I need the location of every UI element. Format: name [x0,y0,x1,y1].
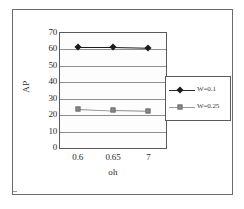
y-axis-tick-label: 30 [48,94,57,103]
series-layer [60,33,166,148]
legend-label: W=0.1 [197,85,216,94]
y-axis-tick-label: 20 [48,110,57,119]
y-axis-tick-label: 40 [48,77,57,86]
x-axis-tick-label: 0.65 [106,152,121,162]
axis-tick-mark [13,191,17,192]
data-point-marker [146,109,151,114]
data-series [60,33,166,148]
x-axis-tick-label: 0.6 [72,152,83,162]
x-axis-tick-labels: 0.60.657 [59,152,167,166]
data-point-marker [111,108,116,113]
y-axis-tick-label: 50 [48,61,57,70]
legend-marker-icon [176,86,183,93]
y-axis-tick-label: 70 [48,28,57,37]
y-axis-tick-label: 10 [48,127,57,136]
plot-area [59,32,167,149]
data-point-marker [75,106,80,111]
chart-figure: AP 010203040506070 0.60.657 oh W=0.1W=0.… [12,9,233,195]
legend-item: W=0.25 [169,101,229,115]
series-line-segment [113,110,148,112]
y-axis-tick-label: 60 [48,44,57,53]
series-line-segment [78,109,113,112]
legend-label: W=0.25 [197,102,219,111]
y-axis-tick-label: 0 [53,143,57,152]
x-axis-tick-label: 7 [146,152,150,162]
x-axis-title: oh [59,167,167,177]
legend-marker-icon [178,105,183,110]
y-axis-tick-labels: 010203040506070 [29,24,57,156]
chart-legend: W=0.1W=0.25 [165,76,231,121]
legend-item: W=0.1 [169,84,229,98]
